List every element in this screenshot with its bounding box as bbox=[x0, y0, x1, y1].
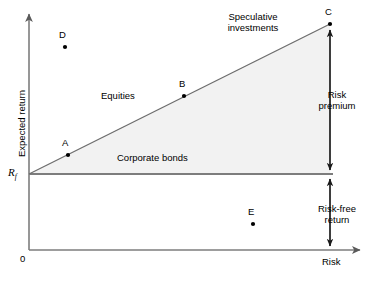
point-label-b: B bbox=[179, 78, 185, 89]
risk-free-rate-label-subscript: f bbox=[15, 172, 17, 181]
risk-premium-label: Riskpremium bbox=[304, 89, 370, 111]
speculative-investments-label: Speculativeinvestments bbox=[199, 11, 307, 33]
risk-free-rate-label-text: R bbox=[8, 166, 15, 178]
risk-free-return-line1: Risk-free bbox=[318, 203, 356, 214]
speculative-investments-line2: investments bbox=[228, 22, 279, 33]
data-point-d bbox=[63, 45, 67, 49]
risk-free-return-line2: return bbox=[325, 214, 350, 225]
risk-premium-line1: Risk bbox=[328, 89, 346, 100]
equities-label: Equities bbox=[101, 90, 135, 101]
corporate-bonds-label: Corporate bonds bbox=[117, 152, 188, 163]
point-label-e: E bbox=[248, 206, 254, 217]
x-axis-title: Risk bbox=[322, 256, 340, 267]
data-point-c bbox=[328, 22, 332, 26]
speculative-investments-line1: Speculative bbox=[228, 11, 277, 22]
y-axis-title: Expected return bbox=[16, 90, 27, 157]
point-label-c: C bbox=[325, 6, 332, 17]
chart-canvas bbox=[0, 0, 374, 282]
risk-return-chart: Expected return Rf 0 Risk Speculativeinv… bbox=[0, 0, 374, 282]
data-point-e bbox=[251, 222, 255, 226]
point-label-a: A bbox=[62, 137, 68, 148]
data-point-a bbox=[66, 153, 70, 157]
origin-label: 0 bbox=[20, 253, 25, 264]
risk-premium-line2: premium bbox=[319, 100, 356, 111]
risk-free-rate-label: Rf bbox=[8, 166, 17, 181]
point-label-d: D bbox=[59, 29, 66, 40]
data-point-b bbox=[182, 94, 186, 98]
risk-free-return-label: Risk-freereturn bbox=[302, 203, 372, 225]
